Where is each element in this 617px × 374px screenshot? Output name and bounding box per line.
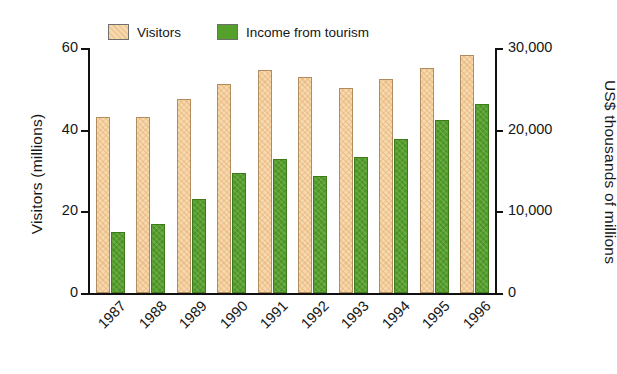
y-axis-left-tick-label: 20 [40,203,78,218]
x-axis-label-cell: 1987 [90,293,131,363]
x-axis-label-cell: 1992 [293,293,334,363]
y-axis-right-tick [496,130,503,132]
bar-visitors[interactable] [379,79,393,293]
x-axis-tick-label: 1987 [95,298,129,332]
bar-group [90,48,131,293]
y-axis-right-tick-label: 10,000 [508,203,552,218]
x-axis-tick-label: 1988 [135,298,169,332]
bar-income[interactable] [273,159,287,293]
x-axis-tick-label: 1990 [216,298,250,332]
bar-groups [90,48,495,293]
y-axis-left-tick [81,211,88,213]
x-axis-tick-label: 1994 [378,298,412,332]
bar-group [131,48,172,293]
y-axis-left-title: Visitors (millions) [28,49,46,299]
x-axis-label-cell: 1996 [455,293,496,363]
x-axis-tick-label: 1992 [297,298,331,332]
legend-swatch-visitors-icon [108,24,129,40]
bar-group [252,48,293,293]
legend-label-visitors: Visitors [137,25,181,40]
legend-item-visitors: Visitors [108,24,181,40]
y-axis-right-tick [496,293,503,295]
y-axis-right-title: US$ thousands of millions [601,47,617,297]
x-axis-label-cell: 1994 [374,293,415,363]
y-axis-left-tick [81,48,88,50]
bar-group [333,48,374,293]
bar-visitors[interactable] [96,117,110,293]
y-axis-right-tick-label: 20,000 [508,122,552,137]
x-axis-label-cell: 1995 [414,293,455,363]
legend-swatch-income-icon [217,24,238,40]
bar-income[interactable] [313,176,327,293]
x-axis-tick-label: 1989 [176,298,210,332]
x-axis-label-cell: 1993 [333,293,374,363]
bar-visitors[interactable] [136,117,150,293]
bar-visitors[interactable] [298,77,312,293]
y-axis-right-line [495,48,497,293]
x-axis-label-cell: 1990 [212,293,253,363]
x-axis-label-cell: 1991 [252,293,293,363]
bar-group [414,48,455,293]
legend-label-income: Income from tourism [246,25,369,40]
bar-visitors[interactable] [177,99,191,293]
bar-group [212,48,253,293]
bar-income[interactable] [192,199,206,293]
x-axis-tick-label: 1996 [459,298,493,332]
bar-income[interactable] [354,157,368,293]
bar-income[interactable] [111,232,125,293]
y-axis-left-tick-label: 0 [40,285,78,300]
x-axis-tick-label: 1993 [338,298,372,332]
bar-visitors[interactable] [339,88,353,293]
x-axis-tick-label: 1991 [257,298,291,332]
bar-income[interactable] [394,139,408,293]
y-axis-left-tick [81,130,88,132]
chart-legend: Visitors Income from tourism [108,24,369,40]
y-axis-right-tick [496,48,503,50]
y-axis-right-tick-label: 0 [508,285,516,300]
bar-visitors[interactable] [460,55,474,293]
y-axis-right-tick-label: 30,000 [508,40,552,55]
legend-item-income: Income from tourism [217,24,369,40]
y-axis-left-tick [81,293,88,295]
bar-group [374,48,415,293]
y-axis-left-tick-label: 60 [40,40,78,55]
bar-visitors[interactable] [420,68,434,293]
plot-area: 0204060 010,00020,00030,000 [90,48,495,293]
bar-income[interactable] [151,224,165,293]
bar-income[interactable] [232,173,246,293]
chart-container: Visitors (millions) US$ thousands of mil… [0,0,617,374]
bar-income[interactable] [435,120,449,293]
y-axis-right-tick [496,211,503,213]
bar-group [293,48,334,293]
bar-visitors[interactable] [258,70,272,293]
bar-income[interactable] [475,104,489,293]
x-axis-tick-label: 1995 [419,298,453,332]
y-axis-left-tick-label: 40 [40,122,78,137]
bar-group [171,48,212,293]
bar-visitors[interactable] [217,84,231,293]
x-axis-label-cell: 1989 [171,293,212,363]
bar-group [455,48,496,293]
x-axis-label-cell: 1988 [131,293,172,363]
x-axis-labels: 1987198819891990199119921993199419951996 [90,293,495,363]
